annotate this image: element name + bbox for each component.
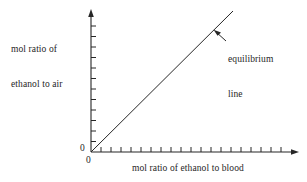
- y-axis-ticks: [91, 26, 96, 142]
- annotation-arrow: [214, 30, 227, 41]
- x-axis-arrowhead: [291, 149, 299, 154]
- equilibrium-line-series: [91, 11, 233, 152]
- y-axis-origin-label: 0: [80, 143, 85, 155]
- x-axis-ticks: [101, 147, 281, 152]
- x-axis-title: mol ratio of ethanol to blood: [132, 163, 244, 175]
- y-axis-arrowhead: [88, 9, 94, 17]
- equilibrium-line-chart: mol ratio of ethanol to air mol ratio of…: [0, 0, 307, 182]
- annotation-line-2: line: [228, 89, 300, 101]
- y-axis-title: mol ratio of ethanol to air: [11, 21, 87, 113]
- x-axis-origin-label: 0: [86, 155, 91, 167]
- equilibrium-line-annotation: equilibrium line: [228, 31, 300, 123]
- y-axis-title-line-2: ethanol to air: [11, 79, 87, 91]
- y-axis-title-line-1: mol ratio of: [11, 44, 87, 56]
- annotation-line-1: equilibrium: [228, 54, 300, 66]
